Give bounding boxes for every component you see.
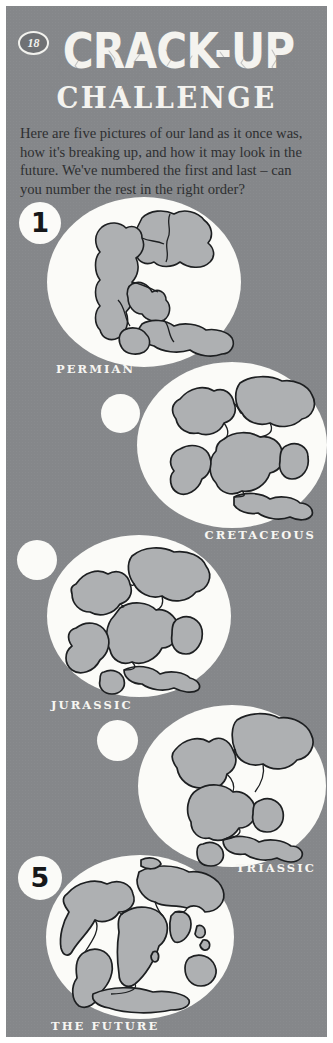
page-title-line1: CRACK-UP [28, 26, 304, 78]
globe-future [45, 854, 235, 1020]
globe-triassic [137, 704, 327, 868]
page-title-line2: CHALLENGE [14, 82, 319, 114]
globe-permian [46, 196, 242, 368]
intro-paragraph: Here are five pictures of our land as it… [20, 124, 316, 198]
answer-circle-triassic[interactable] [97, 720, 138, 761]
answer-circle-permian[interactable]: 1 [19, 202, 61, 244]
answer-circle-cretaceous[interactable] [101, 394, 140, 433]
page-number-badge: 18 [18, 31, 49, 55]
era-label-jurassic: JURASSIC [51, 698, 133, 712]
puzzle-page: 18 CRACK-UP CHALLENGE [0, 0, 333, 1043]
era-label-triassic: TRIASSIC [236, 861, 316, 875]
answer-circle-jurassic[interactable] [17, 540, 57, 580]
era-label-permian: PERMIAN [56, 362, 135, 376]
era-label-future: THE FUTURE [51, 1019, 159, 1033]
answer-circle-future[interactable]: 5 [18, 856, 62, 900]
puzzle-panel: 18 CRACK-UP CHALLENGE [6, 6, 327, 1037]
era-label-cretaceous: CRETACEOUS [204, 528, 316, 542]
globe-cretaceous [136, 361, 327, 529]
globe-jurassic [46, 534, 232, 698]
